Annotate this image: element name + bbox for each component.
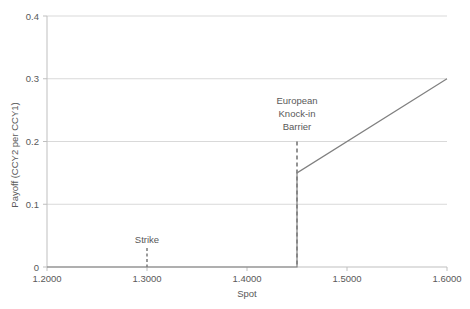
- y-tick-label-0.2: 0.2: [26, 136, 39, 147]
- x-tick-label-1.6000: 1.6000: [432, 273, 461, 284]
- y-tick-label-0: 0: [34, 262, 39, 273]
- chart-background: [0, 0, 470, 309]
- x-tick-label-1.4000: 1.4000: [232, 273, 261, 284]
- y-axis-title: Payoff (CCY2 per CCY1): [9, 102, 20, 207]
- chart-canvas: 0.4 0.3 0.2 0.1 0 1.2000 1.3000 1.4000 1…: [0, 0, 470, 309]
- x-tick-label-1.3000: 1.3000: [132, 273, 161, 284]
- barrier-annotation-line-2: Knock-in: [279, 108, 316, 119]
- payoff-chart: 0.4 0.3 0.2 0.1 0 1.2000 1.3000 1.4000 1…: [0, 0, 470, 309]
- y-tick-label-0.4: 0.4: [26, 11, 39, 22]
- x-tick-label-1.2000: 1.2000: [32, 273, 61, 284]
- y-tick-label-0.3: 0.3: [26, 73, 39, 84]
- strike-annotation-label: Strike: [135, 234, 159, 245]
- barrier-annotation-line-3: Barrier: [283, 121, 312, 132]
- y-tick-label-0.1: 0.1: [26, 199, 39, 210]
- x-tick-label-1.5000: 1.5000: [332, 273, 361, 284]
- x-axis-title: Spot: [237, 288, 257, 299]
- barrier-annotation-line-1: European: [276, 95, 317, 106]
